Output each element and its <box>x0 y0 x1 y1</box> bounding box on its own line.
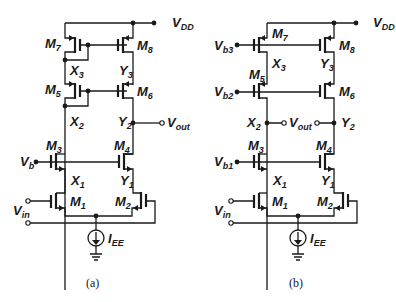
circuit-label: M5 <box>45 82 62 99</box>
circuit-label: Vout <box>289 115 313 132</box>
circuit-label: Vin <box>214 203 231 220</box>
vout-terminal-a[interactable] <box>160 121 164 125</box>
circuit-label: Vb <box>20 154 35 171</box>
circuit-label: M1 <box>272 194 288 211</box>
vout-plus-b[interactable] <box>315 121 319 125</box>
circuit-label: VDD <box>172 15 194 32</box>
circuit-label: X2 <box>246 115 261 132</box>
circuit-label: IEE <box>108 231 125 248</box>
circuit-label: M6 <box>137 84 154 101</box>
vb-terminal-a <box>34 160 39 165</box>
circuit-label: Y3 <box>119 63 133 80</box>
caption-b: (b) <box>289 276 303 290</box>
circuit-label: M3 <box>248 138 264 155</box>
m8-arrow <box>124 35 129 41</box>
vin-minus-a[interactable] <box>26 221 30 225</box>
circuit-label: M6 <box>339 84 356 101</box>
panel-b: VDD M7 M8 Vb3 X3 Y3 M5 M6 Vb2 X2 Vout Y2… <box>214 15 395 290</box>
circuit-label: Vout <box>167 115 191 132</box>
circuit-label: Y3 <box>320 56 334 73</box>
circuit-label: X3 <box>69 63 84 80</box>
vdd-terminal-a <box>152 21 157 26</box>
circuit-label: M5 <box>249 67 266 84</box>
vin-minus-b[interactable] <box>229 221 233 225</box>
circuit-label: M2 <box>317 194 333 211</box>
vin-plus-a[interactable] <box>26 199 30 203</box>
circuit-label: Y1 <box>321 173 335 190</box>
circuit-label: Vin <box>13 203 30 220</box>
circuit-label: M1 <box>70 194 86 211</box>
schematic-canvas: VDD M7 M8 X3 Y3 M5 M6 X2 Y2 Vout M3 M4 V… <box>0 0 396 302</box>
circuit-label: X2 <box>69 114 84 131</box>
vin-plus-b[interactable] <box>229 199 233 203</box>
circuit-label: Y2 <box>341 115 355 132</box>
caption-a: (a) <box>86 276 99 290</box>
ground-icon <box>90 246 102 260</box>
circuit-label: M3 <box>46 138 62 155</box>
circuit-label: Vb2 <box>214 84 233 101</box>
vb2-terminal <box>235 90 240 95</box>
vdd-terminal-b <box>354 21 359 26</box>
m7-arrow <box>69 35 74 41</box>
circuit-label: VDD <box>373 15 395 32</box>
circuit-label: X1 <box>70 173 85 190</box>
circuit-label: Y1 <box>120 173 134 190</box>
circuit-label: M8 <box>137 38 153 55</box>
circuit-label: M8 <box>339 38 355 55</box>
vb3-terminal <box>235 43 240 48</box>
circuit-label: IEE <box>310 231 327 248</box>
circuit-figure: VDD M7 M8 X3 Y3 M5 M6 X2 Y2 Vout M3 M4 V… <box>0 0 396 302</box>
circuit-label: Vb1 <box>214 154 233 171</box>
circuit-label: M4 <box>114 138 130 155</box>
circuit-label: M7 <box>272 26 289 43</box>
circuit-label: X1 <box>272 173 287 190</box>
circuit-label: M2 <box>115 194 131 211</box>
circuit-label: Y2 <box>118 114 132 131</box>
circuit-label: X3 <box>271 56 286 73</box>
panel-a: VDD M7 M8 X3 Y3 M5 M6 X2 Y2 Vout M3 M4 V… <box>13 15 194 290</box>
circuit-label: M4 <box>316 138 332 155</box>
vout-minus-b[interactable] <box>282 121 286 125</box>
ground-icon <box>292 246 304 260</box>
vb1-terminal <box>235 160 240 165</box>
circuit-label: Vb3 <box>214 38 233 55</box>
circuit-label: M7 <box>45 36 62 53</box>
